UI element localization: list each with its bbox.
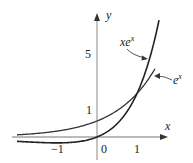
x-axis-arrow-icon	[160, 134, 168, 140]
function-plot: y x −1 0 1 5 1 xex ex	[0, 0, 193, 163]
y-axis-arrow-icon	[94, 13, 100, 21]
y-tick-1: 1	[86, 103, 92, 117]
ex-label: ex	[173, 72, 182, 87]
ex-annotation-arrow-icon	[154, 73, 172, 80]
x-tick-neg1: −1	[51, 142, 64, 156]
x-tick-1: 1	[134, 142, 140, 156]
ex-curve	[17, 69, 155, 135]
y-tick-5: 5	[85, 47, 91, 61]
xex-label: xex	[119, 34, 135, 49]
x-axis-label: x	[164, 119, 171, 133]
xex-annotation-arrow-icon	[127, 49, 148, 61]
axes	[12, 13, 168, 160]
y-axis-label: y	[105, 8, 112, 22]
x-tick-0: 0	[101, 142, 107, 156]
